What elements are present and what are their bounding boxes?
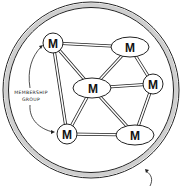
caption-arrow-up [29,47,41,88]
node-label: M [62,128,72,142]
caption-line1: MEMBERSHIP [14,90,48,95]
caption-arrow-down [30,105,53,132]
node-label: M [125,41,135,55]
caption-line2: GROUP [22,97,40,102]
ring-pointer-arrow [146,171,152,186]
node-label: M [48,37,58,51]
membership-group-diagram: M M M M M M MEMBERSHIP GROUP [0,0,182,187]
node-label: M [130,129,140,143]
node-m4: M [143,74,163,94]
node-m1: M [43,33,63,53]
node-label: M [88,82,98,96]
caption-arrowhead-down [51,130,55,134]
node-m3: M [73,78,111,98]
node-m2: M [111,37,149,57]
node-m6: M [116,125,154,145]
node-label: M [148,78,158,92]
node-m5: M [57,124,77,144]
